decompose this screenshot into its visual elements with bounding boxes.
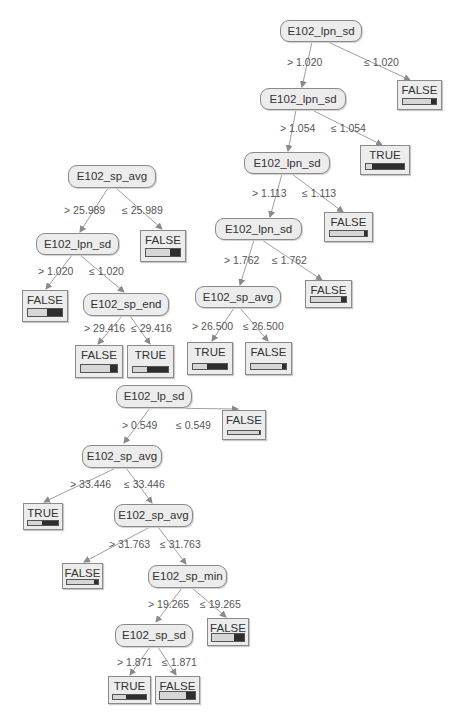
leaf-label: FALSE [223, 413, 265, 427]
class-distribution-bar [66, 579, 99, 585]
leaf-false[interactable]: FALSE [397, 80, 442, 110]
tree-node[interactable]: E102_lpn_sd [215, 218, 302, 240]
class-distribution-bar [211, 633, 245, 642]
edge-label: > 1.762 [224, 254, 259, 266]
edge-label: ≤ 1.020 [364, 56, 399, 68]
edge-label: ≤ 31.763 [160, 538, 201, 550]
edge-label: > 26.500 [192, 320, 233, 332]
leaf-label: TRUE [361, 148, 409, 162]
leaf-label: TRUE [24, 506, 62, 520]
leaf-false[interactable]: FALSE [155, 676, 200, 704]
class-distribution-bar [159, 691, 196, 700]
edge-label: > 31.763 [109, 538, 150, 550]
edge-label: ≤ 1.762 [272, 254, 307, 266]
edge-label: > 19.265 [148, 598, 189, 610]
leaf-label: FALSE [141, 233, 185, 247]
tree-node[interactable]: E102_sp_min [148, 565, 227, 588]
class-distribution-bar [250, 363, 287, 370]
edge-label: ≤ 29.416 [131, 322, 172, 334]
class-distribution-bar [27, 308, 63, 317]
leaf-false[interactable]: FALSE [75, 345, 123, 378]
leaf-true[interactable]: TRUE [108, 676, 151, 704]
edge-label: ≤ 1.020 [89, 265, 124, 277]
class-distribution-bar [112, 694, 147, 700]
tree-node[interactable]: E102_lpn_sd [280, 20, 362, 42]
edge-label: ≤ 1.113 [302, 187, 336, 199]
tree-node[interactable]: E102_sp_avg [82, 445, 162, 468]
edge-label: ≤ 25.989 [122, 204, 163, 216]
class-distribution-bar [27, 520, 59, 526]
edge-label: > 1.020 [287, 56, 322, 68]
leaf-true[interactable]: TRUE [127, 345, 174, 378]
tree-node[interactable]: E102_lpn_sd [36, 233, 119, 255]
edge-label: > 29.416 [84, 322, 125, 334]
class-distribution-bar [227, 430, 261, 435]
leaf-label: FALSE [76, 348, 122, 362]
class-distribution-bar [365, 163, 405, 170]
class-distribution-bar [145, 248, 181, 257]
leaf-true[interactable]: TRUE [360, 145, 410, 175]
tree-node[interactable]: E102_lpn_sd [244, 152, 330, 174]
leaf-label: FALSE [23, 293, 67, 307]
edge-label: > 33.446 [70, 478, 111, 490]
leaf-label: FALSE [306, 283, 351, 297]
leaf-false[interactable]: FALSE [305, 280, 352, 308]
edge-label: ≤ 0.549 [176, 419, 211, 431]
leaf-false[interactable]: FALSE [222, 410, 266, 440]
tree-node[interactable]: E102_sp_avg [195, 286, 281, 308]
leaf-false[interactable]: FALSE [140, 230, 186, 262]
edge-label: > 1.871 [117, 656, 152, 668]
edge-label: ≤ 1.871 [162, 656, 197, 668]
tree-node[interactable]: E102_sp_avg [68, 165, 156, 188]
edge-label: ≤ 26.500 [243, 320, 284, 332]
class-distribution-bar [132, 366, 169, 373]
edge-label: > 0.549 [122, 419, 157, 431]
leaf-false[interactable]: FALSE [324, 212, 373, 242]
class-distribution-bar [329, 230, 368, 237]
leaf-false[interactable]: FALSE [245, 342, 292, 375]
leaf-label: TRUE [109, 679, 150, 693]
leaf-true[interactable]: TRUE [23, 503, 63, 530]
leaf-false[interactable]: FALSE [22, 290, 68, 322]
edge-label: ≤ 1.054 [331, 122, 366, 134]
class-distribution-bar [402, 98, 437, 105]
edge-label: > 1.113 [252, 187, 287, 199]
class-distribution-bar [80, 364, 118, 373]
edge-label: ≤ 33.446 [124, 478, 165, 490]
tree-node[interactable]: E102_sp_sd [115, 624, 193, 647]
leaf-false[interactable]: FALSE [62, 563, 103, 589]
leaf-true[interactable]: TRUE [187, 342, 233, 375]
tree-node[interactable]: E102_sp_end [83, 293, 169, 316]
tree-node[interactable]: E102_lpn_sd [260, 88, 346, 110]
leaf-label: FALSE [63, 566, 102, 580]
edge-label: > 25.989 [64, 204, 105, 216]
edge-label: > 1.020 [38, 265, 73, 277]
class-distribution-bar [192, 363, 228, 370]
leaf-false[interactable]: FALSE [207, 618, 249, 646]
edge-label: > 1.054 [280, 122, 315, 134]
leaf-label: FALSE [398, 83, 441, 97]
leaf-label: TRUE [188, 345, 232, 359]
class-distribution-bar [310, 296, 347, 303]
edge-label: ≤ 19.265 [200, 598, 241, 610]
leaf-label: FALSE [246, 345, 291, 359]
leaf-label: TRUE [128, 348, 173, 362]
leaf-label: FALSE [325, 215, 372, 229]
tree-node[interactable]: E102_sp_avg [114, 504, 193, 527]
tree-node[interactable]: E102_lp_sd [116, 385, 192, 408]
